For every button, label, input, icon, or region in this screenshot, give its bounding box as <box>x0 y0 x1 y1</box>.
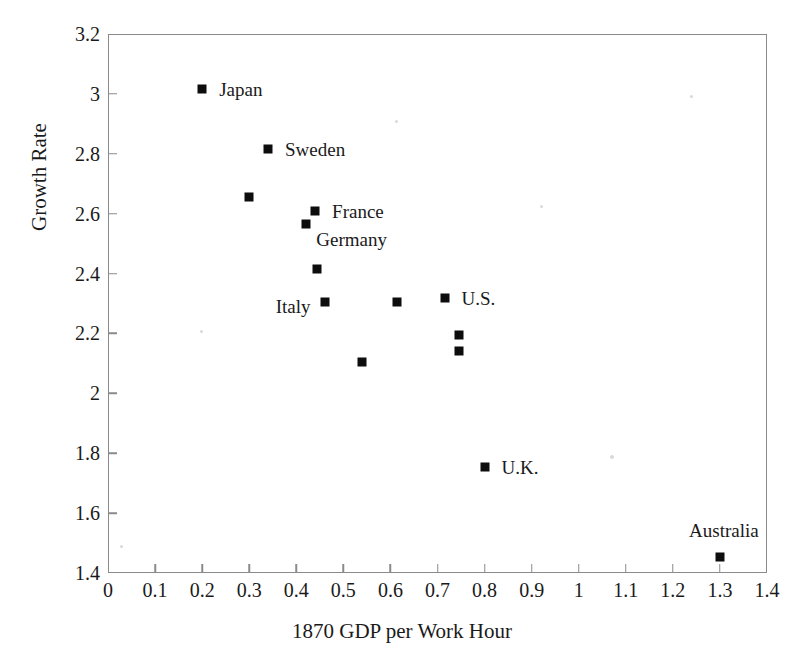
x-axis-tick-label: 0.6 <box>378 580 403 600</box>
x-axis-tick-label: 1.3 <box>707 580 732 600</box>
x-axis-tick-label: 1.4 <box>755 580 780 600</box>
point-label-france: France <box>332 201 384 220</box>
point-label-germany: Germany <box>316 230 387 249</box>
data-point-japan <box>198 85 207 94</box>
y-axis-title: Growth Rate <box>27 123 52 231</box>
x-axis-tick-label: 1.2 <box>660 580 685 600</box>
data-point <box>393 298 402 307</box>
y-axis-tick-label: 2 <box>90 383 100 403</box>
x-axis-tick-label: 0.2 <box>190 580 215 600</box>
data-point <box>454 330 463 339</box>
data-point-uk <box>480 462 489 471</box>
x-axis-tick-label: 1 <box>574 580 584 600</box>
x-axis-tick <box>248 564 250 573</box>
scan-speckle <box>395 120 398 123</box>
x-axis-tick-label: 0.7 <box>425 580 450 600</box>
y-axis-tick <box>108 93 117 95</box>
x-axis-tick <box>390 564 392 573</box>
scatter-chart: JapanSwedenFranceGermanyItalyU.S.U.K.Aus… <box>0 0 804 667</box>
x-axis-tick <box>625 564 627 573</box>
data-point <box>454 347 463 356</box>
y-axis-tick-label: 2.8 <box>75 144 100 164</box>
y-axis-tick-label: 2.2 <box>75 323 100 343</box>
scan-speckle <box>690 95 693 98</box>
data-point <box>245 193 254 202</box>
x-axis-tick <box>531 564 533 573</box>
y-axis-tick-label: 2.6 <box>75 204 100 224</box>
x-axis-tick <box>484 564 486 573</box>
y-axis-tick-label: 2.4 <box>75 264 100 284</box>
x-axis-tick <box>343 564 345 573</box>
scan-speckle <box>540 205 543 208</box>
data-point-france <box>311 206 320 215</box>
x-axis-tick <box>672 564 674 573</box>
y-axis-tick <box>108 452 117 454</box>
y-axis-tick-label: 1.6 <box>75 503 100 523</box>
y-axis-tick <box>108 213 117 215</box>
point-label-japan: Japan <box>219 80 262 99</box>
scan-speckle <box>610 455 614 459</box>
plot-area: JapanSwedenFranceGermanyItalyU.S.U.K.Aus… <box>108 34 767 573</box>
y-axis-tick <box>108 393 117 395</box>
data-point <box>358 357 367 366</box>
y-axis-tick-label: 3 <box>90 84 100 104</box>
scan-speckle <box>200 330 203 333</box>
x-axis-tick <box>578 564 580 573</box>
y-axis-tick <box>108 273 117 275</box>
x-axis-tick-label: 0.5 <box>331 580 356 600</box>
x-axis-tick <box>437 564 439 573</box>
x-axis-tick <box>154 564 156 573</box>
x-axis-tick-label: 0.1 <box>143 580 168 600</box>
y-axis-tick-label: 3.2 <box>75 24 100 44</box>
data-point-australia <box>715 552 724 561</box>
y-axis-tick-label: 1.4 <box>75 563 100 583</box>
x-axis-tick-label: 1.1 <box>613 580 638 600</box>
data-point-us <box>440 293 449 302</box>
x-axis-tick <box>719 564 721 573</box>
x-axis-tick-label: 0.8 <box>472 580 497 600</box>
x-axis-tick-label: 0.3 <box>237 580 262 600</box>
x-axis-tick-label: 0 <box>103 580 113 600</box>
x-axis-tick <box>201 564 203 573</box>
point-label-australia: Australia <box>689 521 759 540</box>
x-axis-title: 1870 GDP per Work Hour <box>0 619 804 644</box>
x-axis-tick-label: 0.4 <box>284 580 309 600</box>
data-point-germany <box>301 220 310 229</box>
y-axis-tick-label: 1.8 <box>75 443 100 463</box>
y-axis-tick <box>108 333 117 335</box>
data-point-italy <box>320 298 329 307</box>
point-label-uk: U.K. <box>502 457 539 476</box>
point-label-sweden: Sweden <box>285 140 345 159</box>
data-point-sweden <box>264 145 273 154</box>
x-axis-tick-label: 0.9 <box>519 580 544 600</box>
x-axis-tick <box>296 564 298 573</box>
point-label-italy: Italy <box>276 297 311 316</box>
y-axis-tick <box>108 512 117 514</box>
data-point <box>313 265 322 274</box>
scan-speckle <box>120 545 123 548</box>
point-label-us: U.S. <box>462 288 496 307</box>
y-axis-tick <box>108 153 117 155</box>
